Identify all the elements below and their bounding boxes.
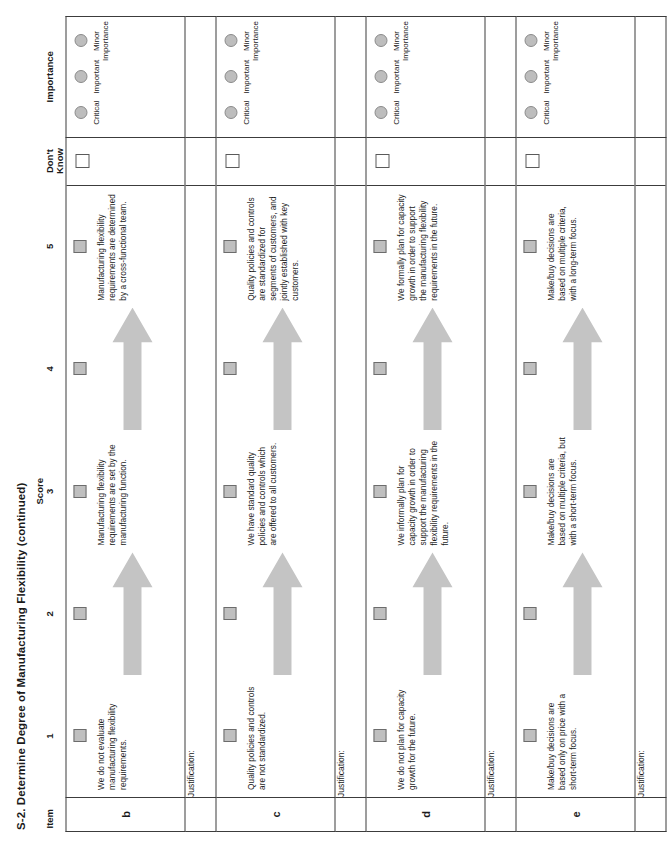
score-cell-4[interactable] [515,308,634,430]
score-checkbox-3[interactable] [223,485,236,498]
assessment-table: Score Item 1 2 3 4 5 Don't Know Importan… [33,16,666,832]
score-cell-2[interactable] [515,553,634,675]
table-row: e Make/buy decisions are based only on p… [515,17,634,832]
importance-option-important[interactable]: Important [374,60,401,94]
score-checkbox-4[interactable] [223,362,236,375]
importance-label-important: Important [92,60,101,94]
score-cell-1[interactable]: Make/buy decisions are based only on pri… [515,675,634,797]
score-checkbox-3[interactable] [373,485,386,498]
score-cell-2[interactable] [215,553,334,675]
row-item-letter: e [569,798,581,831]
dont-know-cell[interactable] [365,137,484,185]
arrow-right-icon [410,308,454,430]
arrow-right-icon [410,553,454,675]
row-item-letter-cell: c [215,797,334,831]
importance-radio-important[interactable] [374,70,387,83]
importance-radio-minor[interactable] [374,34,387,47]
importance-option-important[interactable]: Important [224,60,251,94]
importance-option-minor[interactable]: Minor Importance [374,24,410,58]
justification-field[interactable]: Justification: [484,185,515,797]
progression-arrow [260,308,304,430]
score-checkbox-1[interactable] [223,729,236,742]
score-checkbox-1[interactable] [523,729,536,742]
importance-cell[interactable]: Critical Important Minor Importance [365,17,484,138]
score-description-3: Manufacturing flexibility requirements a… [95,437,128,545]
importance-option-important[interactable]: Important [74,60,101,94]
importance-option-critical[interactable]: Critical [524,96,551,130]
dont-know-cell[interactable] [515,137,634,185]
score-checkbox-5[interactable] [223,240,236,253]
justification-field[interactable]: Justification: [334,185,365,797]
importance-radio-critical[interactable] [524,106,537,119]
score-checkbox-4[interactable] [73,362,86,375]
score-cell-1[interactable]: We do not plan for capacity growth for t… [365,675,484,797]
justification-field[interactable]: Justification: [184,185,215,797]
justification-importance-spacer [184,17,215,138]
score-cell-5[interactable]: Quality policies and controls are standa… [215,185,334,307]
importance-radio-important[interactable] [524,70,537,83]
importance-radio-minor[interactable] [524,34,537,47]
importance-cell[interactable]: Critical Important Minor Importance [515,17,634,138]
importance-option-minor[interactable]: Minor Importance [74,24,110,58]
score-checkbox-2[interactable] [73,607,86,620]
score-checkbox-2[interactable] [373,607,386,620]
score-cell-5[interactable]: Manufacturing flexibility requirements a… [65,185,184,307]
dont-know-checkbox[interactable] [525,154,539,168]
score-cell-4[interactable] [65,308,184,430]
score-checkbox-3[interactable] [73,485,86,498]
importance-option-minor[interactable]: Minor Importance [524,24,560,58]
importance-radio-minor[interactable] [224,34,237,47]
score-checkbox-1[interactable] [373,729,386,742]
importance-radio-critical[interactable] [74,106,87,119]
score-checkbox-2[interactable] [223,607,236,620]
score-checkbox-5[interactable] [523,240,536,253]
dont-know-cell[interactable] [215,137,334,185]
justification-row[interactable]: Justification: [634,17,665,832]
score-cell-2[interactable] [365,553,484,675]
score-checkbox-2[interactable] [523,607,536,620]
score-cell-4[interactable] [365,308,484,430]
dont-know-checkbox[interactable] [75,154,89,168]
score-cell-1[interactable]: Quality policies and controls are not st… [215,675,334,797]
importance-option-critical[interactable]: Critical [374,96,401,130]
dont-know-checkbox[interactable] [225,154,239,168]
score-checkbox-3[interactable] [523,485,536,498]
justification-row[interactable]: Justification: [484,17,515,832]
importance-radio-important[interactable] [74,70,87,83]
importance-option-important[interactable]: Important [524,60,551,94]
header-dont-know: Don't Know [44,137,65,185]
score-cell-2[interactable] [65,553,184,675]
dont-know-checkbox[interactable] [375,154,389,168]
importance-option-critical[interactable]: Critical [224,96,251,130]
score-checkbox-5[interactable] [73,240,86,253]
score-cell-3[interactable]: Manufacturing flexibility requirements a… [65,430,184,552]
importance-radio-minor[interactable] [74,34,87,47]
dont-know-cell[interactable] [65,137,184,185]
score-cell-5[interactable]: We formally plan for capacity growth in … [365,185,484,307]
score-checkbox-4[interactable] [523,362,536,375]
score-cell-5[interactable]: Make/buy decisions are based on multiple… [515,185,634,307]
justification-field[interactable]: Justification: [634,185,665,797]
justification-row[interactable]: Justification: [334,17,365,832]
score-cell-4[interactable] [215,308,334,430]
arrow-right-icon [260,308,304,430]
importance-option-minor[interactable]: Minor Importance [224,24,260,58]
justification-row[interactable]: Justification: [184,17,215,832]
score-cell-1[interactable]: We do not evaluate manufacturing flexibi… [65,675,184,797]
score-checkbox-1[interactable] [73,729,86,742]
score-checkbox-5[interactable] [373,240,386,253]
table-header-row: Item 1 2 3 4 5 Don't Know Importance [44,17,65,832]
score-cell-3[interactable]: Make/buy decisions are based on multiple… [515,430,634,552]
importance-radio-important[interactable] [224,70,237,83]
header-score-2: 2 [44,553,65,675]
score-cell-3[interactable]: We informally plan for capacity growth i… [365,430,484,552]
importance-radio-critical[interactable] [224,106,237,119]
score-cell-3[interactable]: We have standard quality policies and co… [215,430,334,552]
importance-cell[interactable]: Critical Important Minor Importance [65,17,184,138]
importance-label-critical: Critical [392,100,401,124]
importance-cell[interactable]: Critical Important Minor Importance [215,17,334,138]
arrow-right-icon [560,308,604,430]
importance-option-critical[interactable]: Critical [74,96,101,130]
importance-radio-critical[interactable] [374,106,387,119]
score-checkbox-4[interactable] [373,362,386,375]
